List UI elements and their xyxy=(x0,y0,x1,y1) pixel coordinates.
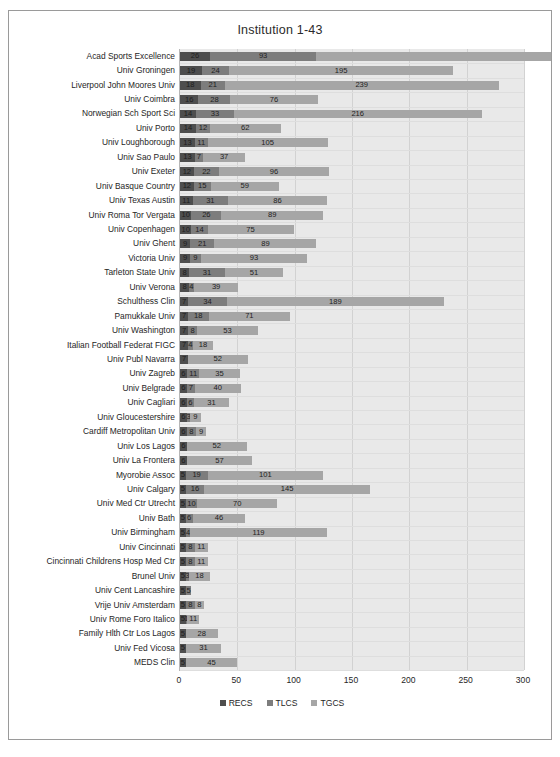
bar-segment-recs[interactable]: 6 xyxy=(180,442,187,451)
bar-segment-tgcs[interactable]: 145 xyxy=(204,485,370,494)
bar-row[interactable]: 102689 xyxy=(180,211,524,220)
bar-segment-tlcs[interactable]: 31 xyxy=(189,268,225,277)
bar-row[interactable]: 9993 xyxy=(180,254,524,263)
bar-row[interactable]: 101475 xyxy=(180,225,524,234)
bar-segment-tgcs[interactable]: 46 xyxy=(193,514,246,523)
bar-segment-recs[interactable]: 12 xyxy=(180,182,194,191)
bar-segment-tlcs[interactable]: 11 xyxy=(187,369,200,378)
bar-segment-recs[interactable]: 16 xyxy=(180,95,198,104)
bar-segment-recs[interactable]: 12 xyxy=(180,167,194,176)
bar-row[interactable]: 588 xyxy=(180,601,524,610)
bar-segment-tlcs[interactable]: 21 xyxy=(190,239,214,248)
bar-row[interactable]: 5646 xyxy=(180,514,524,523)
bar-segment-tgcs[interactable]: 18 xyxy=(189,572,210,581)
bar-segment-tlcs[interactable]: 26 xyxy=(191,211,221,220)
bar-segment-tgcs[interactable]: 9 xyxy=(196,427,206,436)
bar-segment-recs[interactable]: 13 xyxy=(180,153,195,162)
bar-row[interactable]: 1433216 xyxy=(180,110,524,119)
bar-row[interactable]: 5318 xyxy=(180,572,524,581)
bar-row[interactable]: 689 xyxy=(180,427,524,436)
bar-segment-tlcs[interactable]: 8 xyxy=(186,557,195,566)
bar-segment-tlcs[interactable]: 19 xyxy=(186,471,208,480)
bar-segment-tlcs[interactable]: 8 xyxy=(186,601,195,610)
bar-row[interactable]: 6740 xyxy=(180,384,524,393)
bar-row[interactable]: 121559 xyxy=(180,182,524,191)
bar-segment-tlcs[interactable]: 5 xyxy=(186,586,192,595)
bar-segment-tgcs[interactable]: 31 xyxy=(194,398,230,407)
bar-row[interactable]: 8439 xyxy=(180,283,524,292)
bar-segment-recs[interactable]: 6 xyxy=(180,369,187,378)
bar-segment-tlcs[interactable]: 9 xyxy=(190,254,200,263)
bar-segment-tgcs[interactable]: 70 xyxy=(197,499,277,508)
bar-segment-tgcs[interactable]: 59 xyxy=(211,182,279,191)
bar-segment-tlcs[interactable]: 8 xyxy=(187,427,196,436)
bar-row[interactable]: 55 xyxy=(180,586,524,595)
bar-segment-tgcs[interactable]: 545 xyxy=(316,52,552,61)
bar-segment-recs[interactable]: 8 xyxy=(180,268,189,277)
bar-row[interactable]: 6631 xyxy=(180,398,524,407)
bar-segment-recs[interactable]: 9 xyxy=(180,254,190,263)
bar-segment-tgcs[interactable]: 96 xyxy=(219,167,329,176)
bar-segment-tgcs[interactable]: 105 xyxy=(208,138,328,147)
bar-row[interactable]: 531 xyxy=(180,644,524,653)
bar-row[interactable]: 752 xyxy=(180,355,524,364)
bar-segment-tlcs[interactable]: 14 xyxy=(191,225,207,234)
bar-segment-tlcs[interactable]: 16 xyxy=(186,485,204,494)
legend-item-tgcs[interactable]: TGCS xyxy=(311,697,344,708)
bar-segment-tgcs[interactable]: 28 xyxy=(186,629,218,638)
bar-segment-tgcs[interactable]: 11 xyxy=(195,557,208,566)
bar-segment-tgcs[interactable]: 52 xyxy=(188,355,248,364)
bar-row[interactable]: 2693545 xyxy=(180,52,524,61)
bar-segment-tgcs[interactable]: 216 xyxy=(234,110,482,119)
bar-segment-tgcs[interactable]: 119 xyxy=(190,528,326,537)
bar-segment-tgcs[interactable]: 52 xyxy=(187,442,247,451)
bar-row[interactable]: 519101 xyxy=(180,471,524,480)
bar-row[interactable]: 657 xyxy=(180,456,524,465)
bar-segment-tgcs[interactable]: 239 xyxy=(225,81,499,90)
bar-segment-tlcs[interactable]: 93 xyxy=(210,52,317,61)
bar-segment-tgcs[interactable]: 189 xyxy=(227,297,444,306)
bar-segment-tgcs[interactable]: 101 xyxy=(208,471,324,480)
bar-segment-tgcs[interactable]: 40 xyxy=(195,384,241,393)
bar-row[interactable]: 1311105 xyxy=(180,138,524,147)
legend-item-recs[interactable]: RECS xyxy=(220,697,253,708)
bar-segment-recs[interactable]: 19 xyxy=(180,66,202,75)
bar-segment-tlcs[interactable]: 21 xyxy=(201,81,225,90)
bar-segment-recs[interactable]: 6 xyxy=(180,384,187,393)
bar-row[interactable]: 92189 xyxy=(180,239,524,248)
bar-row[interactable]: 5111 xyxy=(180,615,524,624)
bar-segment-tgcs[interactable]: 62 xyxy=(210,124,281,133)
bar-segment-recs[interactable]: 26 xyxy=(180,52,210,61)
bar-segment-recs[interactable]: 7 xyxy=(180,341,188,350)
bar-row[interactable]: 51070 xyxy=(180,499,524,508)
bar-row[interactable]: 639 xyxy=(180,413,524,422)
bar-segment-recs[interactable]: 8 xyxy=(180,283,189,292)
bar-segment-tlcs[interactable]: 24 xyxy=(202,66,230,75)
bar-row[interactable]: 1924195 xyxy=(180,66,524,75)
bar-segment-tlcs[interactable]: 7 xyxy=(195,153,203,162)
bar-row[interactable]: 652 xyxy=(180,442,524,451)
bar-segment-recs[interactable]: 9 xyxy=(180,239,190,248)
bar-segment-tgcs[interactable]: 37 xyxy=(203,153,245,162)
bar-segment-recs[interactable]: 7 xyxy=(180,297,188,306)
bar-segment-tgcs[interactable]: 71 xyxy=(209,312,290,321)
bar-segment-tlcs[interactable]: 28 xyxy=(198,95,230,104)
bar-row[interactable]: 5811 xyxy=(180,557,524,566)
bar-segment-tlcs[interactable]: 10 xyxy=(186,499,197,508)
bar-segment-tgcs[interactable]: 39 xyxy=(194,283,239,292)
bar-segment-recs[interactable]: 7 xyxy=(180,355,188,364)
bar-row[interactable]: 7418 xyxy=(180,341,524,350)
bar-segment-tlcs[interactable]: 8 xyxy=(188,326,197,335)
legend-item-tlcs[interactable]: TLCS xyxy=(267,697,298,708)
bar-segment-recs[interactable]: 14 xyxy=(180,110,196,119)
bar-segment-tgcs[interactable]: 8 xyxy=(195,601,204,610)
bar-segment-recs[interactable]: 6 xyxy=(180,456,187,465)
bar-segment-tgcs[interactable]: 53 xyxy=(197,326,258,335)
bar-segment-tgcs[interactable]: 51 xyxy=(225,268,283,277)
bar-segment-tlcs[interactable]: 34 xyxy=(188,297,227,306)
bar-segment-tlcs[interactable]: 8 xyxy=(186,543,195,552)
bar-segment-tgcs[interactable]: 35 xyxy=(199,369,239,378)
bar-segment-tgcs[interactable]: 57 xyxy=(187,456,252,465)
bar-segment-tlcs[interactable]: 7 xyxy=(187,384,195,393)
bar-segment-tgcs[interactable]: 31 xyxy=(186,644,222,653)
